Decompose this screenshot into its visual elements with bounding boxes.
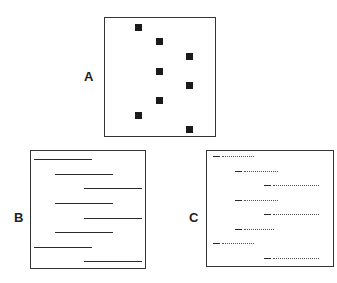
square-marker: [135, 112, 142, 119]
panel-c-label: C: [189, 210, 198, 225]
line-segment: [84, 188, 142, 189]
panel-a: [104, 17, 216, 137]
square-marker: [186, 126, 193, 133]
line-segment: [84, 218, 142, 219]
line-segment: [55, 232, 113, 233]
line-segment: [84, 261, 142, 262]
square-marker: [186, 82, 193, 89]
line-segment: [34, 159, 92, 160]
panel-b: [30, 150, 146, 269]
square-marker: [135, 24, 142, 31]
line-segment: [55, 203, 113, 204]
line-segment: [55, 174, 113, 175]
square-marker: [156, 97, 163, 104]
line-segment: [34, 247, 92, 248]
square-marker: [156, 38, 163, 45]
panel-b-label: B: [14, 210, 23, 225]
panel-c: [206, 150, 334, 267]
square-marker: [186, 53, 193, 60]
square-marker: [156, 68, 163, 75]
panel-a-label: A: [84, 69, 93, 84]
